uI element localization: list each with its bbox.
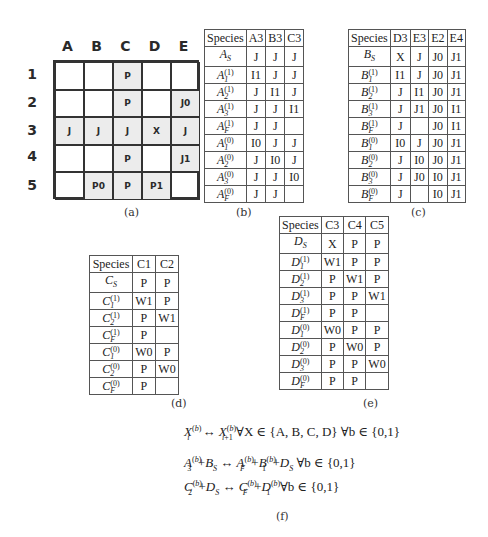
table-cell: P [155, 273, 178, 293]
species-symbol: C [102, 294, 110, 308]
caption-a: (a) [124, 206, 139, 219]
table-cell: I0 [266, 152, 285, 169]
table-cell: W1 [155, 310, 178, 327]
table-cell: W1 [132, 293, 155, 310]
species-subscript: S [303, 241, 307, 250]
table-row: D(1)2PW1P [280, 271, 389, 288]
species-name: D(1)F [280, 305, 322, 322]
species-name: DS [280, 234, 322, 254]
table-row: B(1)3JJ1J0I1 [349, 101, 466, 118]
column-header: E3 [410, 30, 428, 47]
table-cell: I0 [285, 169, 304, 186]
table-cell: J [410, 67, 428, 84]
species-symbol: C [102, 345, 110, 359]
species-name: C(0)1 [90, 344, 133, 361]
table-cell [410, 118, 428, 135]
column-header: C1 [132, 256, 155, 273]
table-cell: J [266, 135, 285, 152]
table-cell: W0 [321, 322, 343, 339]
table-cell: W1 [321, 254, 343, 271]
grid-cell: J0 [171, 90, 200, 118]
column-header: Species [280, 217, 322, 234]
table-row: ASJJJ [205, 47, 304, 67]
table-cell: P [321, 339, 343, 356]
table-cell [155, 378, 178, 395]
species-name: C(0)F [90, 378, 133, 395]
grid-cell [142, 145, 171, 173]
species-subscript: F [368, 127, 377, 134]
table-cell: P [155, 293, 178, 310]
species-name: A(0)1 [205, 135, 247, 152]
table-cell: J0 [429, 152, 447, 169]
species-symbol: B [361, 85, 368, 99]
grid-cell [171, 172, 200, 200]
table-row: B(0)FJI0J1 [349, 186, 466, 203]
species-name: D(1)1 [280, 254, 322, 271]
table-cell: J1 [447, 67, 465, 84]
species-name: A(1)1 [205, 67, 247, 84]
table-cell: I0 [429, 186, 447, 203]
species-symbol: A [217, 85, 224, 99]
species-symbol: A [217, 68, 224, 82]
grid-cell: P [113, 145, 142, 173]
species-name: B(0)F [349, 186, 391, 203]
equation-2: A(b)3 +BS ↔ A(b)F +B(b)1 +DS ∀b ∈ {0,1} [184, 455, 356, 473]
species-subscript: 2 [300, 348, 309, 355]
species-subscript: 2 [110, 370, 119, 377]
table-row: A(1)1I1JJ [205, 67, 304, 84]
grid-row-header: 1 [24, 66, 40, 82]
species-name: BS [349, 47, 391, 67]
table-cell: J [390, 169, 410, 186]
table-cell: I1 [447, 101, 465, 118]
table-cell: P [343, 373, 365, 390]
table-cell: J [285, 47, 304, 67]
species-name: D(1)3 [280, 288, 322, 305]
table-cell: I1 [266, 84, 285, 101]
table-cell: J0 [429, 135, 447, 152]
column-header: E4 [447, 30, 465, 47]
table-row: A(0)FJJ [205, 186, 304, 203]
table-row: B(1)2JI1J0J1 [349, 84, 466, 101]
table-row: D(1)FPP [280, 305, 389, 322]
column-header: Species [349, 30, 391, 47]
species-symbol: D [291, 255, 300, 269]
grid-row-header: 4 [24, 148, 40, 164]
table-cell: J [246, 101, 266, 118]
table-cell: P [132, 327, 155, 344]
table-header-row: SpeciesC1C2 [90, 256, 179, 273]
table-row: A(0)3JJI0 [205, 169, 304, 186]
table-row: C(1)FP [90, 327, 179, 344]
table-cell: J [410, 47, 428, 67]
grid-cell: P [113, 172, 142, 200]
grid-cell [55, 172, 84, 200]
table-cell [155, 327, 178, 344]
species-symbol: B [364, 47, 371, 61]
table-cell: J [266, 101, 285, 118]
table-cell: J [246, 152, 266, 169]
table-cell [285, 118, 304, 135]
table-header-row: SpeciesD3E3E2E4 [349, 30, 466, 47]
species-name: B(1)F [349, 118, 391, 135]
species-subscript: 1 [368, 76, 377, 83]
table-cell: P [366, 271, 388, 288]
table-row: DSXPP [280, 234, 389, 254]
species-subscript: 3 [224, 110, 233, 117]
species-table-c: SpeciesC1C2CSPPC(1)1W1PC(1)2PW1C(1)FPC(0… [89, 255, 179, 395]
table-cell: P [132, 273, 155, 293]
table-cell: J [285, 67, 304, 84]
species-name: B(0)3 [349, 169, 391, 186]
table-cell: J1 [410, 101, 428, 118]
table-row: A(1)2JI1J [205, 84, 304, 101]
species-subscript: 1 [224, 144, 233, 151]
table-cell: J1 [447, 169, 465, 186]
grid-cell: X [142, 117, 171, 145]
table-cell: P [366, 339, 388, 356]
grid-row-header: 3 [24, 122, 40, 138]
column-header: C4 [343, 217, 365, 234]
grid-cell [142, 62, 171, 90]
species-symbol: A [217, 136, 224, 150]
species-name: C(1)2 [90, 310, 133, 327]
species-name: B(0)2 [349, 152, 391, 169]
table-row: A(0)1I0JJ [205, 135, 304, 152]
table-row: C(0)1W0P [90, 344, 179, 361]
